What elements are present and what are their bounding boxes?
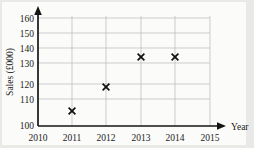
y-tick-120: 120 [20,80,35,90]
scatter-chart: 160 150 140 130 120 110 100 2010 2011 20… [0,0,254,148]
scan-edge-left [0,0,2,148]
x-tick-2010: 2010 [29,133,48,143]
x-tick-2015: 2015 [201,133,220,143]
x-tick-labels: 2010 2011 2012 2013 2014 2015 [29,133,220,143]
x-axis-arrowhead [217,122,226,130]
x-tick-2012: 2012 [97,133,116,143]
chart-canvas: 160 150 140 130 120 110 100 2010 2011 20… [0,0,254,148]
x-axis-title: Year [231,122,249,132]
y-axis-arrowhead [34,6,42,15]
scan-edge-top [0,0,254,2]
gridlines [38,16,210,126]
y-axis-title: Sales (£000) [5,48,16,96]
y-tick-160: 160 [20,14,35,24]
y-tick-140: 140 [20,44,35,54]
y-tick-110: 110 [20,95,34,105]
y-tick-150: 150 [20,29,35,39]
y-tick-labels: 160 150 140 130 120 110 100 [20,14,35,131]
x-tick-2011: 2011 [63,133,82,143]
x-tick-2013: 2013 [132,133,151,143]
scan-edge-bottom [0,145,254,148]
y-tick-100: 100 [20,121,35,131]
x-tick-2014: 2014 [166,133,185,143]
y-tick-130: 130 [20,59,35,69]
axes [34,6,226,130]
